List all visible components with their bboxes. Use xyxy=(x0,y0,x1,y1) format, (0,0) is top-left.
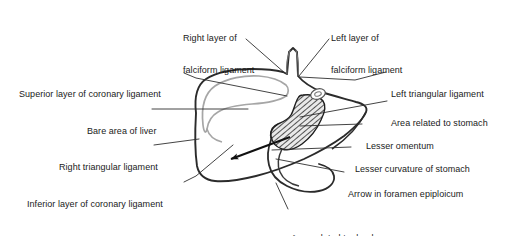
label-line-1: Arrow in foramen epiploicum xyxy=(348,189,463,200)
leader-left-layer-falciform xyxy=(299,39,329,76)
label-inferior-layer-coronary-ligament: Inferior layer of coronary ligament xyxy=(27,178,163,231)
label-line-1: Superior layer of coronary ligament xyxy=(19,89,161,100)
label-line-1: Area related to duodenum xyxy=(291,233,396,236)
liver-anatomy-figure: Right layer of falciform ligament Left l… xyxy=(0,0,520,236)
label-line-1: Bare area of liver xyxy=(87,126,156,137)
label-line-1: Inferior layer of coronary ligament xyxy=(27,199,163,210)
label-area-related-to-duodenum: Area related to duodenum xyxy=(291,212,396,236)
label-line-1: Left layer of xyxy=(331,33,402,44)
label-right-layer-falciform-ligament: Right layer of falciform ligament xyxy=(183,12,254,96)
label-line-1: Right layer of xyxy=(183,33,254,44)
leader-right-triangular xyxy=(154,139,199,145)
label-line-1: Right triangular ligament xyxy=(59,162,158,173)
label-line-2: falciform ligament xyxy=(183,65,254,76)
leader-area-duodenum xyxy=(276,183,288,209)
